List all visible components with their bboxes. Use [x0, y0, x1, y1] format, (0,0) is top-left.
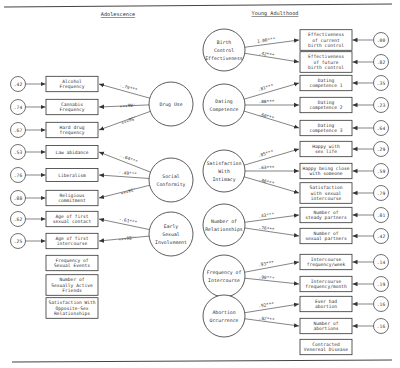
- path-coefficient: -.86***: [118, 235, 137, 242]
- error-value: .42: [377, 234, 386, 239]
- path-arrow: [99, 175, 149, 178]
- latent-circle: [203, 255, 245, 297]
- error-value: .62: [14, 217, 23, 222]
- indicator-label: with sexual: [311, 191, 342, 196]
- path-coefficient: .60***: [258, 111, 275, 120]
- standalone-variable-label: Sexual Events: [54, 263, 90, 268]
- indicator-label: Cannabis: [61, 102, 83, 107]
- standalone-variable-label: Sexually Active: [51, 283, 93, 288]
- indicator-label: frequency: [60, 130, 85, 135]
- error-value: .74: [14, 105, 23, 110]
- latent-circle: [149, 158, 193, 202]
- header-adolescence: Adolescence: [101, 11, 135, 17]
- indicator-label: abortion: [315, 304, 337, 309]
- error-value: .16: [377, 302, 386, 307]
- path-coefficient: .92***: [258, 301, 275, 308]
- path-coefficient: 1.00***: [257, 36, 276, 43]
- latent-number-of-relationships: [203, 204, 245, 246]
- indicator-label: Number of: [314, 321, 339, 326]
- header-young-adulthood: Young Adulthood: [252, 10, 299, 17]
- latent-label: Birth: [217, 40, 232, 45]
- error-value: .67: [14, 128, 23, 133]
- indicator-label: sex life: [315, 149, 337, 154]
- error-value: .59: [377, 169, 386, 174]
- error-value: .88: [14, 196, 23, 201]
- latent-label: Early: [164, 224, 179, 229]
- indicator-label: Effectiveness: [308, 32, 344, 37]
- standalone-variable-label: Number of: [60, 277, 85, 282]
- indicator-label: Number of: [314, 231, 339, 236]
- path-coefficient: .92***: [258, 315, 275, 322]
- indicator-label: Satisfaction: [309, 185, 342, 190]
- indicator-label: Law abidance: [55, 150, 88, 155]
- indicator-label: Liberalism: [58, 173, 86, 178]
- latent-label: Occurrence: [210, 318, 239, 323]
- standalone-variable-label: Frequency of: [55, 258, 88, 263]
- indicator-label: Happy with: [312, 144, 340, 149]
- top-rule: [4, 4, 392, 7]
- indicator-label: Frequency: [60, 84, 85, 89]
- error-value: .79: [377, 191, 386, 196]
- latent-label: Competence: [210, 107, 239, 112]
- latent-circle: [203, 204, 245, 246]
- indicator-label: sexual partners: [305, 236, 347, 241]
- indicator-label: Age of first: [55, 236, 88, 241]
- latent-circle: [203, 84, 245, 126]
- error-value: .64: [377, 126, 386, 131]
- indicator-label: Happy being close: [302, 166, 349, 171]
- latent-label: Control: [214, 48, 234, 53]
- indicator-label: Effectiveness: [308, 54, 344, 59]
- indicator-label: of future: [314, 60, 339, 65]
- latent-label: Number of: [211, 219, 237, 224]
- error-value: .81: [377, 213, 386, 218]
- error-value: .42: [14, 82, 23, 87]
- path-coefficient: -.64***: [119, 153, 138, 164]
- indicator-label: birth control: [308, 65, 344, 70]
- latent-label: Intimacy: [212, 177, 235, 182]
- standalone-variable-label: Satisfaction With: [48, 300, 95, 305]
- error-value: .29: [377, 147, 386, 152]
- indicator-label: intercourse: [57, 241, 88, 246]
- indicator-label: Intercourse: [311, 257, 342, 262]
- standalone-variable-label: Contracted: [312, 342, 340, 347]
- indicator-label: of current: [312, 38, 340, 43]
- indicator-label: Frequency: [60, 107, 85, 112]
- error-value: .14: [377, 260, 386, 265]
- path-coefficient: .58***: [120, 115, 137, 125]
- error-value: .00: [377, 38, 386, 43]
- indicator-label: abortions: [314, 326, 339, 331]
- indicator-label: steady partners: [305, 215, 347, 220]
- path-coefficient: .88***: [259, 99, 275, 104]
- latent-label: Involvement: [155, 240, 187, 245]
- indicator-label: sexual contact: [53, 219, 92, 224]
- error-value: .23: [377, 103, 386, 108]
- error-value: .35: [377, 81, 386, 86]
- latent-label: Intercourse: [208, 278, 240, 283]
- latent-label: Sexual: [162, 232, 179, 237]
- latent-social-conformity: [149, 158, 193, 202]
- indicator-label: frequency/month: [305, 284, 347, 289]
- path-diagram: Adolescence Young Adulthood Drug UseAlco…: [0, 0, 400, 368]
- indicator-label: birth control: [308, 43, 344, 48]
- indicator-label: commitment: [58, 198, 86, 203]
- error-value: .19: [377, 282, 386, 287]
- standalone-variable-label: Friends: [62, 288, 82, 293]
- latent-label: Social: [162, 174, 179, 179]
- indicator-label: competence 3: [309, 128, 342, 133]
- path-coefficient: -.49***: [118, 170, 137, 176]
- indicator-label: Alcohol: [62, 79, 82, 84]
- latent-dating-competence: [203, 84, 245, 126]
- indicator-label: Intercourse: [311, 279, 342, 284]
- latent-label: Relationships: [205, 227, 243, 232]
- latent-frequency-of-intercourse: [203, 255, 245, 297]
- path-coefficient: .46***: [258, 177, 275, 186]
- indicator-label: competence 2: [309, 105, 342, 110]
- path-coefficient: .86***: [119, 103, 135, 109]
- latent-label: Satisfaction: [207, 161, 242, 166]
- error-value: .53: [14, 150, 23, 155]
- indicator-label: Ever had: [315, 299, 337, 304]
- indicator-label: Hard drug: [60, 125, 85, 130]
- path-coefficient: .43***: [258, 212, 275, 219]
- path-coefficient: .93***: [258, 260, 275, 268]
- latent-label: Effectiveness: [205, 56, 243, 61]
